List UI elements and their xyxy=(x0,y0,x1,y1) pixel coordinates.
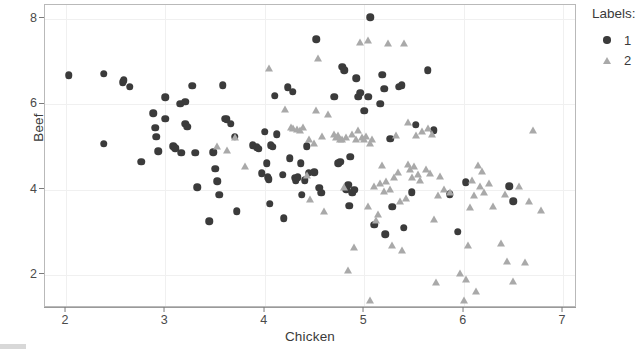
legend-title: Labels: xyxy=(592,6,642,21)
data-point-group-1 xyxy=(126,83,134,91)
data-point-group-1 xyxy=(337,158,345,166)
data-point-group-2 xyxy=(462,275,470,282)
data-point-group-1 xyxy=(120,76,128,84)
x-axis-tick-label: 4 xyxy=(260,313,267,327)
scatter-plot-figure: 8642 Beef 234567 Chicken Labels: 12 xyxy=(0,0,642,351)
data-point-group-2 xyxy=(432,279,440,286)
y-axis-tick: 8 xyxy=(30,11,44,25)
data-point-group-1 xyxy=(183,123,191,131)
data-points-layer xyxy=(45,5,575,306)
data-point-group-2 xyxy=(497,240,505,247)
data-point-group-1 xyxy=(273,131,281,139)
data-point-group-1 xyxy=(303,143,311,151)
data-point-group-2 xyxy=(509,278,517,285)
y-axis-tick-label: 2 xyxy=(30,267,37,281)
data-point-group-2 xyxy=(231,133,239,140)
data-point-group-1 xyxy=(211,165,219,173)
legend-entry[interactable]: 2 xyxy=(599,50,642,70)
y-axis-tick-label: 4 xyxy=(30,182,37,196)
x-axis-tick: 3 xyxy=(161,307,168,327)
data-point-group-2 xyxy=(213,143,221,150)
data-point-group-2 xyxy=(364,36,372,43)
data-point-group-1 xyxy=(150,109,158,117)
data-point-group-2 xyxy=(265,65,273,72)
data-point-group-2 xyxy=(537,207,545,214)
x-axis-tick: 5 xyxy=(360,307,367,327)
data-point-group-2 xyxy=(350,244,358,251)
x-axis-tick-mark xyxy=(164,307,165,312)
data-point-group-1 xyxy=(271,92,279,100)
data-point-group-2 xyxy=(400,39,408,46)
data-point-group-1 xyxy=(360,107,368,115)
x-axis-line xyxy=(44,307,576,308)
y-axis-tick: 2 xyxy=(30,267,44,281)
data-point-group-2 xyxy=(344,267,352,274)
data-point-group-1 xyxy=(346,202,354,210)
data-point-group-2 xyxy=(478,167,486,174)
x-axis-tick-label: 2 xyxy=(61,313,68,327)
data-point-group-2 xyxy=(436,173,444,180)
data-point-group-2 xyxy=(464,241,472,248)
data-point-group-2 xyxy=(374,210,382,217)
data-point-group-2 xyxy=(394,168,402,175)
data-point-group-2 xyxy=(324,110,332,117)
data-point-group-1 xyxy=(233,207,241,215)
data-point-group-1 xyxy=(177,149,185,157)
x-axis-tick: 6 xyxy=(459,307,466,327)
x-axis-tick: 7 xyxy=(559,307,566,327)
data-point-group-2 xyxy=(372,216,380,223)
data-point-group-2 xyxy=(503,257,511,264)
data-point-group-1 xyxy=(162,93,170,101)
data-point-group-2 xyxy=(416,177,424,184)
data-point-group-2 xyxy=(306,196,314,203)
x-axis-tick-label: 6 xyxy=(459,313,466,327)
data-point-group-1 xyxy=(155,148,163,156)
data-point-group-2 xyxy=(529,127,537,134)
x-axis-tick-mark xyxy=(462,307,463,312)
data-point-group-1 xyxy=(364,93,372,101)
data-point-group-1 xyxy=(350,186,358,194)
data-point-group-2 xyxy=(312,106,320,113)
data-point-group-1 xyxy=(227,120,235,128)
data-point-group-1 xyxy=(313,35,321,43)
x-axis-tick-label: 3 xyxy=(161,313,168,327)
data-point-group-2 xyxy=(386,185,394,192)
data-point-group-2 xyxy=(303,171,311,178)
data-point-group-2 xyxy=(392,132,400,139)
data-point-group-1 xyxy=(255,145,263,153)
data-point-group-1 xyxy=(347,153,355,161)
data-point-group-2 xyxy=(515,183,523,190)
data-point-group-1 xyxy=(356,89,364,97)
data-point-group-1 xyxy=(380,85,388,93)
data-point-group-1 xyxy=(263,160,271,168)
data-point-group-2 xyxy=(470,191,478,198)
data-point-group-2 xyxy=(521,259,529,266)
data-point-group-2 xyxy=(318,133,326,140)
data-point-group-1 xyxy=(318,189,326,197)
triangle-marker-glyph xyxy=(603,57,611,64)
data-point-group-2 xyxy=(460,296,468,303)
data-point-group-2 xyxy=(501,191,509,198)
data-point-group-1 xyxy=(297,160,305,168)
data-point-group-2 xyxy=(480,189,488,196)
data-point-group-1 xyxy=(261,128,269,136)
x-axis-tick: 2 xyxy=(61,307,68,327)
legend-entry-label: 2 xyxy=(624,53,631,68)
x-axis-tick-label: 7 xyxy=(559,313,566,327)
legend-entry[interactable]: 1 xyxy=(599,30,642,50)
data-point-group-1 xyxy=(378,71,386,79)
data-point-group-1 xyxy=(381,231,389,239)
data-point-group-2 xyxy=(466,203,474,210)
data-point-group-2 xyxy=(378,162,386,169)
data-point-group-2 xyxy=(366,297,374,304)
x-axis-tick-mark xyxy=(363,307,364,312)
data-point-group-2 xyxy=(289,125,297,132)
data-point-group-1 xyxy=(152,124,160,132)
y-axis-tick-label: 8 xyxy=(30,11,37,25)
data-point-group-1 xyxy=(213,178,221,186)
data-point-group-1 xyxy=(215,191,223,199)
y-axis-tick: 4 xyxy=(30,182,44,196)
data-point-group-2 xyxy=(402,195,410,202)
data-point-group-2 xyxy=(398,246,406,253)
data-point-group-1 xyxy=(153,133,161,141)
